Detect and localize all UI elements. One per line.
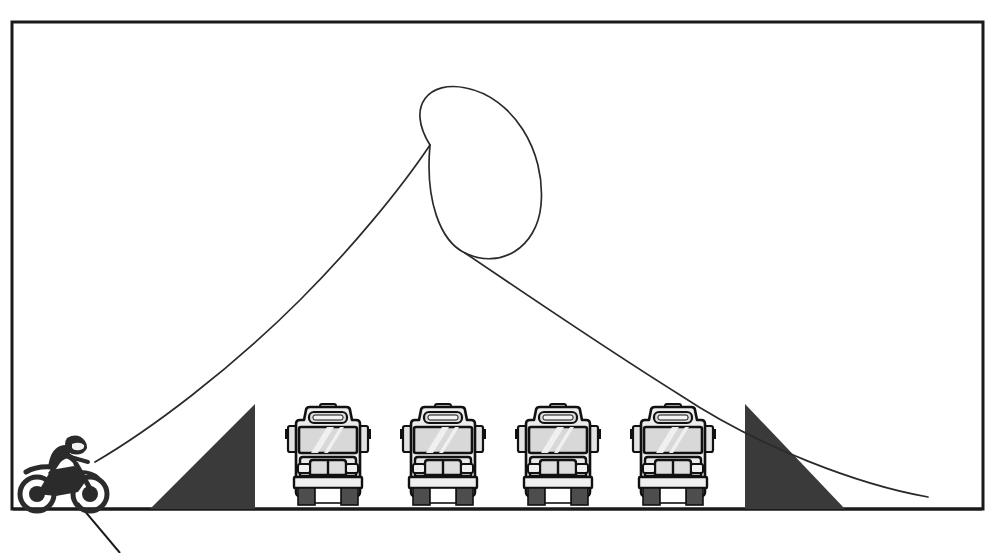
school-bus-2: [401, 404, 485, 505]
figure-frame-border: [12, 22, 983, 509]
school-bus-4: [631, 404, 715, 505]
scene-svg: [0, 0, 996, 553]
school-bus-1: [286, 404, 370, 505]
school-bus-3: [516, 404, 600, 505]
figure-scene: [0, 0, 996, 553]
figure-root: Figure 1. A motorcyclist jumps over a ro…: [0, 0, 996, 553]
